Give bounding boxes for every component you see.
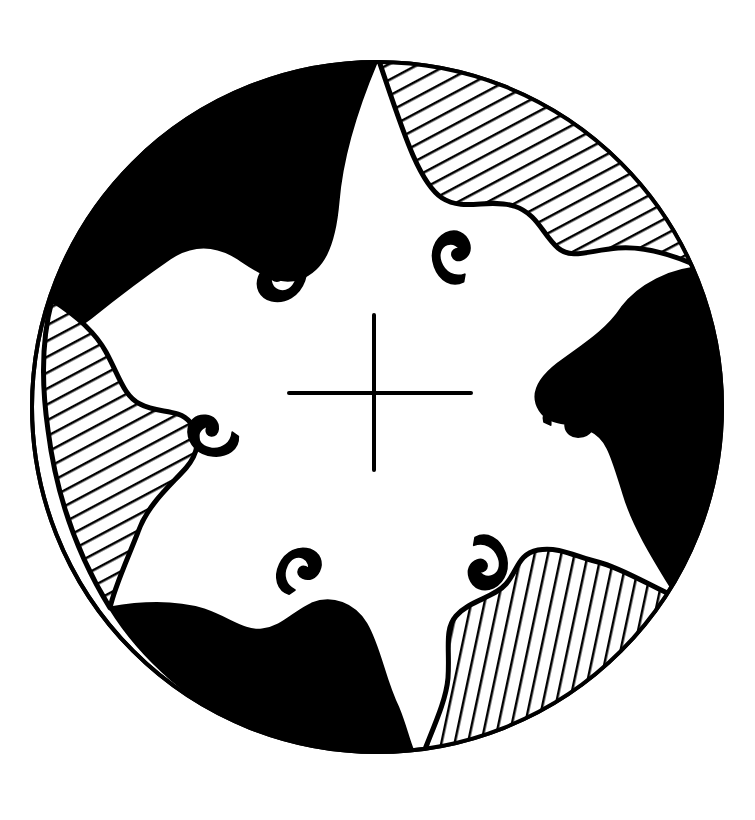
mandala-diagram: Circular cosmological mandala diagram Ha…: [0, 0, 755, 820]
figure-canvas: Circular cosmological mandala diagram Ha…: [0, 0, 755, 820]
